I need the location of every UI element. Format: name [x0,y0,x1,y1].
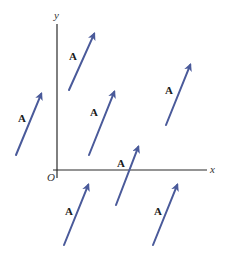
vector-field: AAAAAAA [16,34,190,245]
vector-a: A [69,34,94,90]
coordinate-axes: y x O [47,9,215,183]
vector-label: A [117,157,125,169]
vector-a: A [165,65,190,125]
vector-diagram: y x O AAAAAAA [0,0,227,260]
x-axis-label: x [209,163,215,175]
vector-label: A [90,106,98,118]
vector-label: A [65,205,73,217]
vector-label: A [18,112,26,124]
y-axis-label: y [53,9,59,21]
vector-arrow-icon [16,94,41,155]
vector-a: A [153,185,177,245]
vector-label: A [69,50,77,62]
vector-arrow-icon [116,147,138,205]
vector-a: A [89,92,114,155]
vector-label: A [154,205,162,217]
origin-label: O [47,171,55,183]
vector-label: A [165,84,173,96]
vector-a: A [116,147,138,205]
vector-a: A [16,94,41,155]
vector-arrow-icon [89,92,114,155]
vector-a: A [64,185,88,245]
